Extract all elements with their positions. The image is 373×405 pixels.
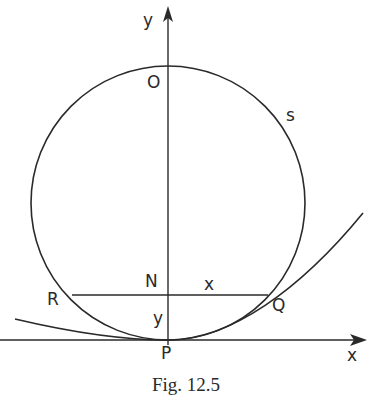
label-R: R: [47, 289, 59, 309]
curve: [15, 213, 363, 340]
label-s: s: [286, 105, 295, 125]
label-y-axis: y: [143, 10, 153, 30]
label-segment-x: x: [204, 274, 214, 294]
label-N: N: [145, 271, 158, 291]
diagram-canvas: y O s N x R Q y P x Fig. 12.5: [0, 0, 373, 405]
figure-caption: Fig. 12.5: [152, 374, 220, 395]
label-segment-y: y: [153, 308, 163, 328]
label-P: P: [161, 343, 171, 363]
label-O: O: [147, 72, 160, 92]
label-Q: Q: [272, 295, 285, 315]
label-x-axis: x: [347, 345, 357, 365]
